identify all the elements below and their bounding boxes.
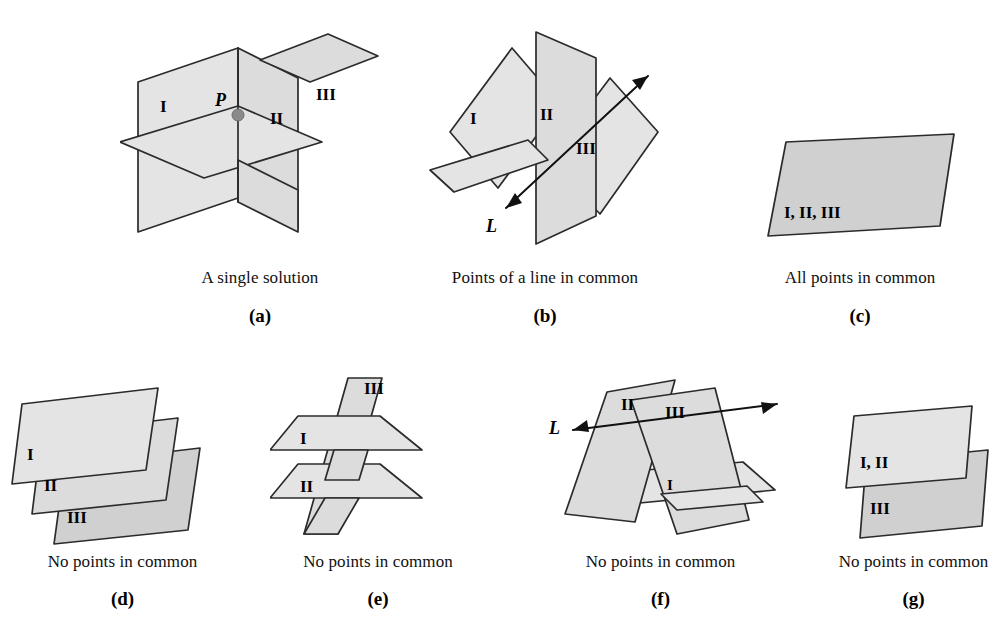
plane-I-shape <box>12 388 158 484</box>
panel-d-caption: No points in common <box>0 552 245 572</box>
plane-label-II: II <box>270 109 284 128</box>
panel-c-caption: All points in common <box>720 268 1000 288</box>
plane-label-II: II <box>300 477 314 496</box>
plane-label-I: I <box>27 445 34 464</box>
panel-a-diagram: I P II III <box>120 20 400 260</box>
panel-a-letter: (a) <box>120 305 400 327</box>
plane-II-shape <box>536 32 596 244</box>
panel-f-caption: No points in common <box>528 552 793 572</box>
panel-g: I, II III <box>838 400 1007 550</box>
plane-label-III: III <box>67 508 87 527</box>
panel-b: I II III L <box>410 20 680 260</box>
panel-d-letter: (d) <box>0 588 245 610</box>
panel-f: II III I L <box>525 362 815 552</box>
plane-label-III: III <box>364 379 384 398</box>
plane-label-II: II <box>540 105 554 124</box>
point-P-marker <box>232 109 244 121</box>
panel-e-diagram: III I II <box>270 368 490 548</box>
panel-d-diagram: I II III <box>10 378 240 548</box>
plane-label-I: I <box>300 429 307 448</box>
panel-d: I II III <box>10 378 240 548</box>
plane-label-III: III <box>576 139 596 158</box>
panel-c-diagram: I, II, III <box>740 120 990 260</box>
line-label-L: L <box>485 216 497 236</box>
line-label-L: L <box>548 418 560 438</box>
plane-label-I: I <box>160 97 167 116</box>
plane-label-II: II <box>44 476 58 495</box>
panel-g-diagram: I, II III <box>838 400 1007 550</box>
panel-g-caption: No points in common <box>820 552 1007 572</box>
panel-e-caption: No points in common <box>258 552 498 572</box>
plane-I-II-shape <box>846 406 972 488</box>
plane-label-II: II <box>621 395 635 414</box>
figure-root: I P II III A single solution (a) I II <box>0 0 1007 636</box>
plane-label-III: III <box>870 499 890 518</box>
panel-e: III I II <box>270 368 490 548</box>
plane-I-shape <box>270 416 422 450</box>
panel-b-diagram: I II III L <box>410 20 680 260</box>
panel-g-letter: (g) <box>820 588 1007 610</box>
panel-c: I, II, III <box>740 120 990 260</box>
plane-label-III: III <box>665 403 685 422</box>
panel-c-letter: (c) <box>720 305 1000 327</box>
plane-label-III: III <box>316 85 336 104</box>
plane-label-I: I <box>470 109 477 128</box>
panel-f-letter: (f) <box>528 588 793 610</box>
panel-a: I P II III <box>120 20 400 260</box>
panel-b-caption: Points of a line in common <box>400 268 690 288</box>
line-L-arrowhead-right <box>761 402 777 414</box>
plane-label-I: I <box>667 477 673 493</box>
plane-label-I-II-III: I, II, III <box>784 203 841 222</box>
panel-f-diagram: II III I L <box>525 362 815 552</box>
panel-b-letter: (b) <box>400 305 690 327</box>
line-L-arrowhead-left <box>573 420 589 432</box>
panel-e-letter: (e) <box>258 588 498 610</box>
point-label-P: P <box>214 90 227 110</box>
plane-label-I-II: I, II <box>860 453 889 472</box>
panel-a-caption: A single solution <box>120 268 400 288</box>
